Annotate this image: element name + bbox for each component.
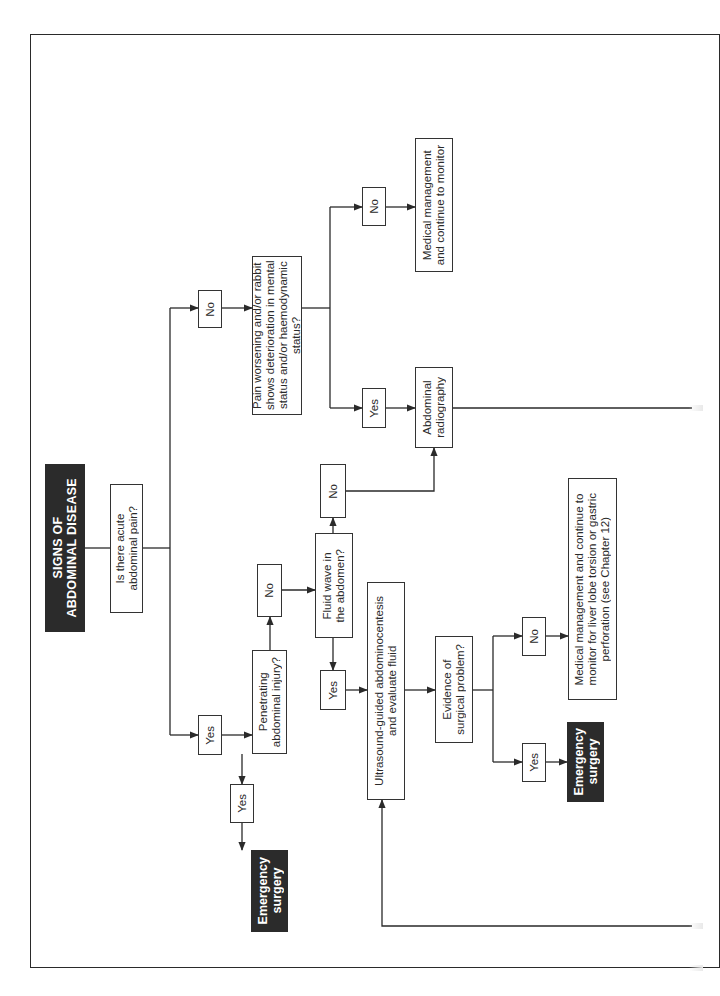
node-text: Evidence of surgical problem? [441,644,467,735]
label-no-penetrating: No [257,564,282,617]
label-yes-pain: Yes [198,715,222,755]
node-medical-management-liver: Medical management and continue to monit… [568,478,617,700]
node-text: Medical management and continue to monit… [573,493,612,685]
offpage-connector-fade [689,405,703,411]
node-text: Yes [327,681,340,700]
offpage-connector-fade [689,965,703,971]
label-yes-fluid: Yes [320,670,346,710]
node-text: No [528,629,541,644]
node-pain-worsening-question: Pain worsening and/or rabbit shows deter… [252,256,302,415]
node-fluid-wave-question: Fluid wave in the abdomen? [315,533,353,638]
node-text: No [368,199,381,214]
node-medical-management-monitor: Medical management and continue to monit… [415,138,453,272]
node-text: No [327,484,340,499]
node-text: Yes [236,794,249,813]
label-yes-penetrating: Yes [230,784,254,823]
label-no-fluid: No [320,464,346,518]
node-acute-pain-question: Is there acute abdominal pain? [110,484,143,613]
node-text: Emergency surgery [256,857,284,924]
offpage-connector-fade [689,923,703,929]
node-text: Is there acute abdominal pain? [114,506,140,590]
node-emergency-surgery-2: Emergency surgery [567,722,604,802]
node-text: Yes [368,399,381,418]
node-surgical-problem-question: Evidence of surgical problem? [435,636,473,743]
node-text: Abdominal radiography [421,377,447,438]
label-yes-worsening: Yes [362,388,386,428]
label-no-pain: No [198,290,222,328]
node-text: No [204,302,217,317]
title-text: SIGNS OF ABDOMINAL DISEASE [51,478,79,618]
node-text: No [263,583,276,598]
node-text: Penetrating abdominal injury? [257,657,283,747]
node-text: Pain worsening and/or rabbit shows deter… [252,257,302,414]
title-box: SIGNS OF ABDOMINAL DISEASE [45,464,85,632]
node-text: Fluid wave in the abdomen? [321,549,347,623]
node-abdominal-radiography: Abdominal radiography [415,367,453,448]
label-no-surgical: No [522,617,546,656]
node-emergency-surgery-1: Emergency surgery [251,850,288,932]
node-text: Yes [528,753,541,772]
label-yes-surgical: Yes [522,743,546,782]
label-no-worsening: No [362,187,386,226]
node-text: Ultrasound-guided abdominocentesis and e… [373,596,399,786]
node-ultrasound-abdominocentesis: Ultrasound-guided abdominocentesis and e… [367,582,405,800]
node-penetrating-injury-question: Penetrating abdominal injury? [252,650,287,754]
node-text: Emergency surgery [572,728,600,795]
node-text: Medical management and continue to monit… [421,145,447,265]
node-text: Yes [204,726,217,745]
